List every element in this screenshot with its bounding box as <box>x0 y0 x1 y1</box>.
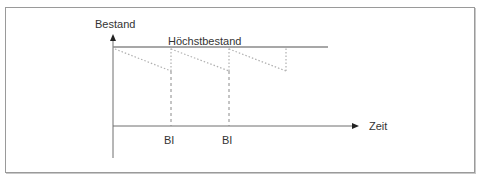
inventory-curve <box>115 48 286 71</box>
y-axis-label: Bestand <box>95 19 135 30</box>
x-axis-label: Zeit <box>369 121 387 132</box>
y-axis <box>110 34 116 158</box>
max-level-label: Höchstbestand <box>168 36 241 47</box>
x-axis <box>113 123 359 129</box>
order-point-label-1: BI <box>164 135 174 146</box>
inventory-diagram <box>0 0 482 182</box>
order-point-lines <box>171 71 229 126</box>
order-point-label-2: BI <box>222 135 232 146</box>
x-axis-arrow-icon <box>352 123 359 129</box>
y-axis-arrow-icon <box>110 34 116 41</box>
